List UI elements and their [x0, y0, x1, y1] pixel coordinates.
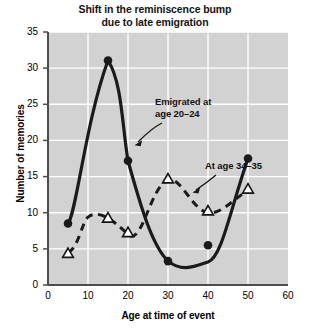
- x-tick-label-20: 20: [113, 290, 143, 301]
- data-point-marker: [104, 56, 113, 65]
- x-tick-label-0: 0: [33, 290, 63, 301]
- data-point-marker: [204, 241, 213, 250]
- x-tick-label-30: 30: [153, 290, 183, 301]
- annotation-solid-line2: age 20–24: [155, 108, 200, 119]
- data-point-marker: [64, 219, 73, 228]
- y-tick-label-30: 30: [14, 62, 38, 73]
- annotation-emigrated-age-20-24: Emigrated at age 20–24: [155, 96, 211, 119]
- chart-figure: Shift in the reminiscence bump due to la…: [0, 0, 310, 331]
- x-tick-label-10: 10: [73, 290, 103, 301]
- x-tick-label-40: 40: [193, 290, 223, 301]
- y-tick-label-5: 5: [14, 243, 38, 254]
- data-point-marker: [164, 257, 173, 266]
- x-axis-title: Age at time of event: [48, 310, 288, 321]
- y-tick-label-0: 0: [14, 279, 38, 290]
- plot-canvas: [0, 0, 310, 331]
- annotation-solid-line1: Emigrated at: [155, 96, 211, 107]
- data-point-marker: [124, 157, 133, 166]
- y-tick-label-35: 35: [14, 26, 38, 37]
- x-tick-label-60: 60: [273, 290, 303, 301]
- x-tick-label-50: 50: [233, 290, 263, 301]
- y-axis-title: Number of memories: [15, 89, 26, 219]
- annotation-at-age-34-35: At age 34–35: [205, 160, 262, 172]
